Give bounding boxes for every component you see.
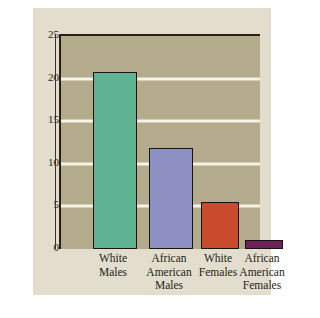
x-axis-label-line: African (231, 252, 283, 266)
x-axis-tick-labels: WhiteMalesAfricanAmericanMalesWhiteFemal… (59, 252, 264, 300)
plot-area (59, 34, 260, 249)
x-axis-label-line: Males (138, 279, 200, 293)
bar (245, 240, 283, 249)
x-axis-label-line: Females (231, 279, 283, 293)
x-axis-label-line: American (231, 266, 283, 280)
x-axis-label-line: White (85, 252, 141, 266)
figure-card: Suicides per 100,000 25 20 15 10 5 0 Whi… (33, 8, 271, 295)
bars-group (61, 36, 260, 249)
bar (149, 148, 193, 249)
x-axis-label-line: Males (85, 266, 141, 280)
y-axis-line (55, 34, 56, 249)
bar (93, 72, 137, 249)
x-axis-label: WhiteMales (85, 252, 141, 279)
bar (201, 202, 239, 249)
x-axis-label: AfricanAmericanFemales (231, 252, 283, 293)
